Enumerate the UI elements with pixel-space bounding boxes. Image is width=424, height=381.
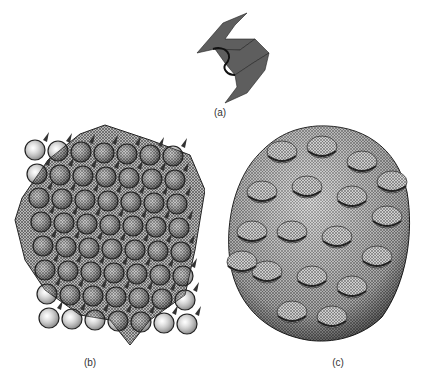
lattice-cell xyxy=(125,240,145,260)
blob-lump xyxy=(377,171,407,193)
lattice-mesh-b xyxy=(10,120,205,350)
lattice-cell xyxy=(62,309,82,329)
lattice-cell xyxy=(73,166,93,186)
lattice-cell xyxy=(150,265,170,285)
blob-lump xyxy=(247,181,277,203)
lattice-cell xyxy=(79,238,99,258)
lattice-cell xyxy=(50,165,70,185)
panel-a xyxy=(195,5,275,105)
lattice-cell xyxy=(152,289,172,309)
lattice-cell xyxy=(96,167,116,187)
lattice-cell xyxy=(165,170,185,190)
lattice-cell xyxy=(142,169,162,189)
blob-lump xyxy=(322,226,352,248)
blob-lump xyxy=(277,221,307,243)
lattice-cell xyxy=(27,164,47,184)
lattice-cell xyxy=(33,236,53,256)
blob-lump xyxy=(372,206,402,228)
lattice-cell xyxy=(102,239,122,259)
blob-lump xyxy=(292,176,322,198)
blob-lump xyxy=(337,186,367,208)
lattice-spike xyxy=(193,282,199,292)
lattice-cell xyxy=(108,311,128,331)
lattice-cell xyxy=(163,146,183,166)
lattice-cell xyxy=(173,266,193,286)
lattice-cell xyxy=(100,215,120,235)
lattice-cell xyxy=(123,216,143,236)
lattice-cell xyxy=(98,191,118,211)
lattice-cell xyxy=(144,193,164,213)
blob-lump xyxy=(227,251,257,273)
lattice-cell xyxy=(54,213,74,233)
panel-label-a: (a) xyxy=(205,107,235,118)
lattice-cell xyxy=(117,144,137,164)
lattice-cell xyxy=(77,214,97,234)
lattice-cell xyxy=(39,308,59,328)
lattice-cell xyxy=(148,241,168,261)
panel-c xyxy=(222,122,412,344)
lattice-cell xyxy=(83,286,103,306)
lattice-cell xyxy=(175,290,195,310)
lattice-cell xyxy=(131,312,151,332)
lattice-cell xyxy=(140,145,160,165)
lattice-cell xyxy=(58,261,78,281)
lattice-cell xyxy=(37,284,57,304)
blob-lump xyxy=(307,136,337,158)
lattice-cell xyxy=(169,218,189,238)
lattice-cell xyxy=(121,192,141,212)
lattice-cell xyxy=(106,287,126,307)
lattice-cell xyxy=(29,188,49,208)
blob-lump xyxy=(267,141,297,163)
lattice-cell xyxy=(48,141,68,161)
lattice-cell xyxy=(60,285,80,305)
lattice-cell xyxy=(104,263,124,283)
lattice-cell xyxy=(31,212,51,232)
lattice-cell xyxy=(85,310,105,330)
lattice-cell xyxy=(127,264,147,284)
lattice-cell xyxy=(52,189,72,209)
lattice-spike xyxy=(57,300,63,310)
blob-lump xyxy=(337,276,367,298)
blob-mesh-c xyxy=(222,122,412,344)
lattice-cell xyxy=(171,242,191,262)
lattice-cell xyxy=(81,262,101,282)
blob-lump xyxy=(317,306,347,328)
lattice-cell xyxy=(35,260,55,280)
blob-lump xyxy=(277,301,307,323)
blob-lump xyxy=(297,266,327,288)
panel-label-b: (b) xyxy=(75,357,105,368)
panel-label-c: (c) xyxy=(323,357,353,368)
lattice-cell xyxy=(177,314,197,334)
blob-lump xyxy=(347,151,377,173)
saddle-mesh-a xyxy=(195,5,275,105)
lattice-cell xyxy=(71,142,91,162)
lattice-cell xyxy=(56,237,76,257)
lattice-spike xyxy=(195,306,201,316)
lattice-cell xyxy=(129,288,149,308)
lattice-cell xyxy=(146,217,166,237)
panel-b xyxy=(10,120,205,350)
lattice-spike xyxy=(43,132,49,142)
lattice-spike xyxy=(181,138,187,148)
lattice-cell xyxy=(75,190,95,210)
lattice-cell xyxy=(119,168,139,188)
lattice-cell xyxy=(154,313,174,333)
blob-lump xyxy=(237,221,267,243)
lattice-cell xyxy=(167,194,187,214)
blob-lump xyxy=(362,246,392,268)
lattice-spike xyxy=(172,305,178,315)
lattice-cell xyxy=(25,140,45,160)
lattice-cell xyxy=(94,143,114,163)
